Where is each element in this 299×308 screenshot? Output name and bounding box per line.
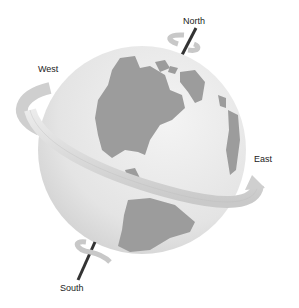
east-arrowhead: [245, 175, 265, 190]
label-west: West: [38, 64, 58, 74]
label-east: East: [254, 154, 272, 164]
label-north: North: [183, 16, 205, 26]
earth-rotation-diagram: North West East South: [0, 0, 299, 308]
label-south: South: [60, 283, 84, 293]
